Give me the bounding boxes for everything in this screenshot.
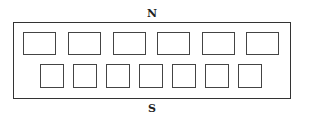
top-row-box-5	[202, 32, 235, 55]
bottom-row-box-1	[40, 64, 64, 88]
south-label: S	[148, 103, 156, 114]
bottom-row-box-2	[73, 64, 97, 88]
bottom-row-box-3	[106, 64, 130, 88]
top-row-box-3	[113, 32, 146, 55]
bottom-row-box-5	[172, 64, 196, 88]
top-row-box-2	[68, 32, 101, 55]
top-row-box-6	[246, 32, 279, 55]
top-row-box-1	[23, 32, 56, 55]
north-label: N	[147, 8, 157, 19]
bottom-row-box-6	[205, 64, 229, 88]
top-row-box-4	[157, 32, 190, 55]
bottom-row-box-4	[139, 64, 163, 88]
bottom-row-box-7	[238, 64, 262, 88]
